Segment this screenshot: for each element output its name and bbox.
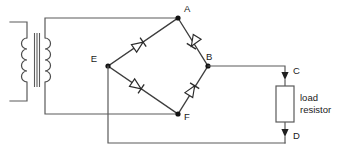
circuit-canvas: A B C D E F load resistor bbox=[0, 0, 346, 162]
arrowhead-c bbox=[281, 72, 288, 80]
transformer-primary-leads bbox=[10, 22, 27, 101]
wiring-output bbox=[208, 66, 285, 143]
node-dot-a bbox=[175, 15, 180, 20]
bridge-rectifier bbox=[108, 18, 208, 114]
diode-bottom-right bbox=[184, 83, 199, 98]
wire-e-to-d-return bbox=[108, 66, 285, 143]
label-node-e: E bbox=[91, 53, 97, 64]
transformer-secondary-coil bbox=[45, 38, 51, 82]
load-resistor-label: load resistor bbox=[300, 92, 331, 115]
load-resistor-label-line2: resistor bbox=[300, 104, 331, 115]
node-dot-f bbox=[175, 111, 180, 116]
transformer-core bbox=[35, 33, 40, 87]
wire-b-to-c bbox=[208, 66, 285, 72]
label-node-a: A bbox=[184, 3, 191, 14]
node-dots bbox=[105, 15, 210, 116]
wiring-e-branch bbox=[108, 66, 285, 143]
load-resistor bbox=[276, 86, 294, 122]
label-node-d: D bbox=[293, 130, 300, 141]
transformer-primary-coil bbox=[22, 38, 28, 82]
circuit-diagram: A B C D E F load resistor bbox=[0, 0, 346, 162]
wire-bottom-to-f bbox=[45, 82, 178, 114]
arrowhead-d bbox=[281, 129, 288, 137]
diode-top-left bbox=[131, 38, 146, 53]
load-resistor-label-line1: load bbox=[300, 92, 318, 103]
diode-bottom-left bbox=[129, 78, 144, 93]
label-node-f: F bbox=[184, 111, 190, 122]
wire-top-to-a bbox=[45, 18, 178, 38]
label-node-b: B bbox=[206, 51, 212, 62]
bridge-arm-e-f bbox=[108, 66, 178, 114]
load-resistor-body bbox=[276, 86, 294, 122]
label-node-c: C bbox=[293, 65, 300, 76]
node-labels: A B C D E F bbox=[91, 3, 300, 141]
